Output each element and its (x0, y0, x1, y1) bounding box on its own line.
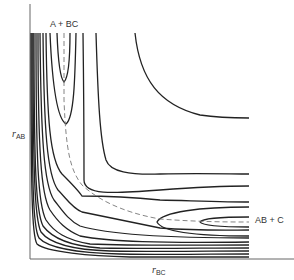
contour-reactant-well-2 (50, 33, 76, 124)
products-label: AB + C (255, 215, 284, 225)
x-axis-sub: BC (156, 269, 166, 276)
contour-wall-4 (32, 33, 249, 254)
contour-wall-3 (33, 33, 249, 251)
contour-diagram (0, 0, 294, 280)
reactants-label: A + BC (50, 19, 78, 29)
y-axis-label: rAB (12, 128, 25, 140)
contour-plateau-2 (135, 33, 249, 118)
contour-plateau-top (83, 33, 249, 193)
reaction-path-dashed (64, 33, 249, 222)
contour-saddle-2 (43, 33, 249, 230)
x-axis-label: rBC (152, 264, 166, 276)
y-axis-sub: AB (16, 133, 25, 140)
contour-saddle-4 (38, 33, 249, 242)
contour-reactant-well-inner (57, 33, 70, 82)
